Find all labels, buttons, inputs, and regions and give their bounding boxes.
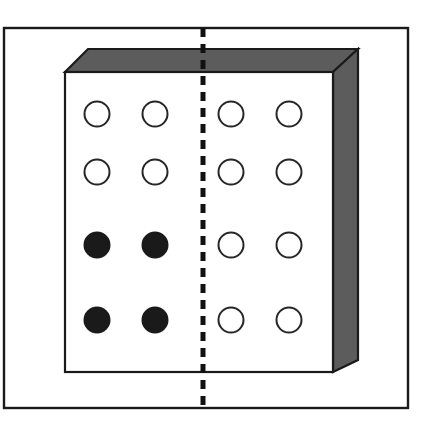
hole-filled-r4c2 (143, 308, 168, 333)
hole-open-r2c1 (85, 160, 110, 185)
block-symmetry-diagram (0, 0, 428, 422)
figure-canvas (0, 0, 428, 422)
hole-filled-r3c1 (85, 233, 110, 258)
hole-open-r3c4 (277, 233, 302, 258)
hole-open-r1c3 (219, 102, 244, 127)
hole-open-r4c4 (277, 308, 302, 333)
block-right-face (333, 49, 358, 372)
hole-open-r2c2 (143, 160, 168, 185)
hole-filled-r3c2 (143, 233, 168, 258)
hole-filled-r4c1 (85, 308, 110, 333)
hole-open-r1c2 (143, 102, 168, 127)
hole-open-r1c1 (85, 102, 110, 127)
hole-open-r1c4 (277, 102, 302, 127)
hole-open-r4c3 (219, 308, 244, 333)
hole-open-r3c3 (219, 233, 244, 258)
block-top-face (65, 49, 358, 72)
hole-open-r2c4 (277, 160, 302, 185)
hole-open-r2c3 (219, 160, 244, 185)
